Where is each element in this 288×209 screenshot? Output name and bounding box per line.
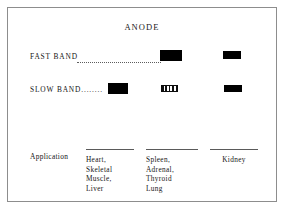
application-rule-3 xyxy=(210,149,258,150)
fast-band-column3 xyxy=(223,51,241,59)
slow-band-column2 xyxy=(161,85,178,92)
anode-band-figure: ANODE FAST BAND SLOW BAND........ Applic… xyxy=(0,0,288,209)
fast-band-column2 xyxy=(160,50,182,61)
fast-band-label: FAST BAND xyxy=(30,52,78,61)
application-column-3: Kidney xyxy=(210,149,258,165)
application-column-1: Heart, Skeletal Muscle, Liver xyxy=(86,149,134,193)
application-column-2-text: Spleen, Adrenal, Thyroid Lung xyxy=(146,155,198,193)
application-label: Application xyxy=(30,152,68,161)
application-rule-2 xyxy=(146,149,198,150)
application-column-2: Spleen, Adrenal, Thyroid Lung xyxy=(146,149,198,193)
slow-band-column1 xyxy=(108,83,128,94)
fast-band-leader xyxy=(77,61,161,63)
figure-title: ANODE xyxy=(8,22,276,32)
application-column-3-text: Kidney xyxy=(210,155,258,165)
slow-band-row: SLOW BAND........ xyxy=(8,83,276,99)
application-column-1-text: Heart, Skeletal Muscle, Liver xyxy=(86,155,134,193)
application-rule-1 xyxy=(86,149,134,150)
slow-band-column3 xyxy=(224,85,242,92)
slow-band-label: SLOW BAND........ xyxy=(30,85,103,94)
figure-frame: ANODE FAST BAND SLOW BAND........ Applic… xyxy=(7,7,277,202)
fast-band-row: FAST BAND xyxy=(8,50,276,66)
